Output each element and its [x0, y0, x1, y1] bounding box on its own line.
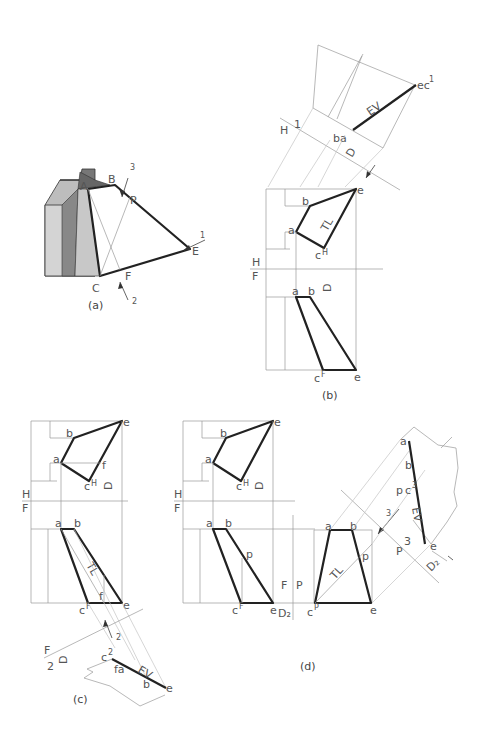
svg-text:b: b	[302, 195, 309, 208]
svg-text:c: c	[79, 604, 85, 617]
plane-profile-view	[315, 530, 371, 603]
svg-text:c: c	[84, 480, 90, 493]
svg-text:H: H	[252, 256, 260, 269]
svg-text:a: a	[53, 453, 60, 466]
svg-text:H: H	[243, 479, 249, 488]
svg-text:3: 3	[404, 535, 411, 548]
svg-text:EV: EV	[409, 506, 424, 523]
svg-text:c: c	[405, 484, 411, 497]
svg-text:c: c	[232, 604, 238, 617]
panel-d: e b a c H D H F a b p c F e F P D₂ a b p…	[174, 416, 458, 673]
svg-text:b: b	[143, 678, 150, 691]
svg-text:b: b	[220, 427, 227, 440]
label-E: E	[192, 245, 199, 258]
svg-text:p: p	[362, 550, 369, 563]
svg-text:F: F	[239, 602, 244, 611]
panel-a-pictorial: A B P E F C 3 1 2 (a)	[45, 163, 205, 312]
svg-text:p: p	[246, 548, 253, 561]
svg-text:c: c	[101, 651, 107, 664]
svg-text:H: H	[280, 124, 288, 137]
edge-view-line	[353, 85, 416, 130]
svg-text:F: F	[22, 502, 28, 515]
svg-text:2: 2	[108, 648, 113, 657]
svg-text:D: D	[253, 482, 266, 490]
caption-b: (b)	[322, 389, 338, 402]
svg-text:e: e	[354, 371, 361, 384]
svg-text:F: F	[44, 644, 50, 657]
svg-text:b: b	[74, 517, 81, 530]
svg-text:a: a	[205, 453, 212, 466]
svg-text:D: D	[57, 656, 70, 664]
svg-text:f: f	[102, 459, 107, 472]
svg-text:P: P	[314, 603, 319, 612]
svg-text:e: e	[166, 682, 173, 695]
svg-text:c: c	[314, 372, 320, 385]
fold-line-F2	[44, 609, 143, 658]
label-C: C	[92, 282, 100, 295]
arrow-label-1: 1	[200, 231, 205, 240]
plane-front-view	[213, 529, 273, 603]
svg-text:p: p	[396, 484, 403, 497]
svg-text:1: 1	[294, 118, 301, 131]
svg-text:e: e	[274, 416, 281, 429]
caption-d: (d)	[300, 660, 316, 673]
svg-text:e: e	[370, 604, 377, 617]
svg-text:D: D	[321, 284, 334, 292]
svg-text:1: 1	[429, 75, 434, 84]
svg-text:H: H	[22, 488, 30, 501]
technical-drawing: A B P E F C 3 1 2 (a) ec 1 EV ba H 1 D	[0, 0, 483, 743]
svg-text:e: e	[123, 599, 130, 612]
svg-text:H: H	[322, 248, 328, 257]
svg-text:e: e	[430, 540, 437, 553]
plane-front-view	[296, 297, 356, 370]
svg-text:a: a	[292, 285, 299, 298]
arrow-label-3: 3	[130, 163, 135, 172]
svg-text:b: b	[308, 285, 315, 298]
svg-text:2: 2	[116, 633, 121, 642]
panel-c: e b a f c H D H F a b TL f c F e F 2 D	[22, 416, 173, 706]
svg-text:TL: TL	[327, 563, 347, 583]
svg-text:D₂: D₂	[278, 607, 291, 620]
svg-text:b: b	[66, 427, 73, 440]
caption-c: (c)	[73, 693, 88, 706]
label-A: A	[80, 180, 88, 193]
svg-text:e: e	[123, 416, 130, 429]
svg-text:e: e	[270, 604, 277, 617]
svg-text:a: a	[206, 517, 213, 530]
svg-text:c: c	[315, 249, 321, 262]
edge-view-line	[409, 441, 425, 544]
svg-text:2: 2	[47, 660, 54, 673]
svg-text:H: H	[174, 488, 182, 501]
svg-text:3: 3	[412, 481, 417, 490]
caption-a: (a)	[88, 299, 103, 312]
svg-text:P: P	[396, 545, 403, 558]
label-P: P	[130, 194, 137, 207]
svg-text:H: H	[91, 479, 97, 488]
arrow-label-2: 2	[132, 297, 137, 306]
svg-text:3: 3	[386, 509, 391, 518]
label-B: B	[108, 173, 116, 186]
svg-text:F: F	[321, 370, 326, 379]
svg-text:c: c	[307, 606, 313, 619]
panel-b: ec 1 EV ba H 1 D e b a c H TL H F D	[250, 45, 434, 402]
svg-text:b: b	[405, 459, 412, 472]
svg-text:P: P	[296, 579, 303, 592]
svg-text:EV: EV	[364, 99, 384, 118]
svg-text:a: a	[325, 520, 332, 533]
svg-text:a: a	[400, 435, 407, 448]
svg-text:b: b	[350, 520, 357, 533]
svg-text:a: a	[55, 517, 62, 530]
svg-text:b: b	[225, 517, 232, 530]
svg-text:D: D	[102, 482, 115, 490]
svg-text:F: F	[174, 502, 180, 515]
svg-text:TL: TL	[83, 559, 102, 578]
svg-text:ba: ba	[333, 132, 347, 145]
label-F: F	[125, 270, 131, 283]
svg-text:F: F	[252, 270, 258, 283]
svg-text:ec: ec	[417, 79, 430, 92]
svg-text:fa: fa	[114, 663, 125, 676]
svg-text:e: e	[357, 184, 364, 197]
svg-text:c: c	[236, 480, 242, 493]
svg-text:a: a	[288, 224, 295, 237]
svg-text:F: F	[281, 579, 287, 592]
